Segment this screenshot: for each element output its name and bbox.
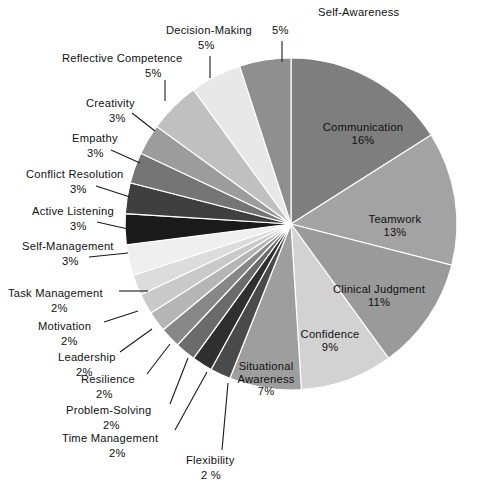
leader-line-empathy [111, 150, 140, 163]
slice-percent-flexibility: 2 % [201, 469, 221, 482]
slice-label-active-listening: Active Listening [32, 205, 114, 218]
slice-percent-creativity: 3% [109, 112, 126, 125]
leader-line-active-listening [97, 222, 128, 229]
slice-label-name: Teamwork [325, 213, 465, 226]
slice-percent-self-management: 3% [62, 255, 79, 268]
slice-label-percent: 16% [293, 134, 433, 147]
slice-label-task-management: Task Management [8, 287, 103, 300]
slice-percent-decision-making: 5% [198, 39, 215, 52]
slice-percent-motivation: 2% [61, 335, 78, 348]
slice-label-decision-making: Decision-Making [166, 24, 252, 37]
leader-line-time-management [175, 372, 207, 430]
slice-percent-active-listening: 3% [70, 220, 87, 233]
slice-label-conflict-resolution: Conflict Resolution [26, 168, 124, 181]
leader-line-resilience [147, 344, 170, 374]
slice-percent-reflective-competence: 5% [145, 67, 162, 80]
slice-label-name: Clinical Judgment [309, 283, 449, 296]
leader-line-problem-solving [170, 358, 188, 404]
slice-label-leadership: Leadership [58, 351, 116, 364]
slice-percent-task-management: 2% [51, 302, 68, 315]
slice-label-inside: Teamwork13% [325, 213, 465, 238]
slice-label-flexibility: Flexibility [186, 454, 234, 467]
slice-label-inside: Communication16% [293, 121, 433, 146]
slice-label-reflective-competence: Reflective Competence [62, 52, 182, 65]
slice-label-resilience: Resilience [81, 373, 135, 386]
slice-percent-resilience: 2% [96, 388, 113, 401]
leader-line-self-management [89, 253, 128, 257]
slice-label-percent: 7% [221, 385, 311, 398]
slice-percent-time-management: 2% [109, 447, 126, 460]
leader-line-creativity [132, 113, 155, 131]
slice-percent-problem-solving: 2% [103, 419, 120, 432]
slice-percent-self-awareness: 5% [272, 24, 289, 37]
slice-percent-conflict-resolution: 3% [70, 183, 87, 196]
slice-label-creativity: Creativity [86, 97, 135, 110]
slice-label-percent: 11% [309, 296, 449, 309]
slice-label-inside: Clinical Judgment11% [309, 283, 449, 308]
slice-label-inside: Situational Awareness7% [221, 360, 311, 398]
slice-label-self-awareness: Self-Awareness [318, 6, 399, 19]
slice-label-time-management: Time Management [62, 432, 158, 445]
slice-label-problem-solving: Problem-Solving [66, 404, 151, 417]
slice-label-inside: Confidence9% [260, 328, 400, 353]
slice-label-self-management: Self-Management [22, 240, 114, 253]
slice-label-empathy: Empathy [72, 132, 118, 145]
leader-line-motivation [104, 311, 138, 322]
pie-chart: Communication16%Teamwork13%Clinical Judg… [0, 0, 480, 491]
slice-label-name: Confidence [260, 328, 400, 341]
slice-label-name: Situational Awareness [221, 360, 311, 385]
slice-label-percent: 9% [260, 341, 400, 354]
slice-label-percent: 13% [325, 226, 465, 239]
slice-percent-empathy: 3% [87, 147, 104, 160]
slice-label-motivation: Motivation [38, 320, 91, 333]
leader-line-leadership [120, 329, 152, 352]
leader-line-conflict-resolution [96, 186, 130, 197]
slice-label-name: Communication [293, 121, 433, 134]
